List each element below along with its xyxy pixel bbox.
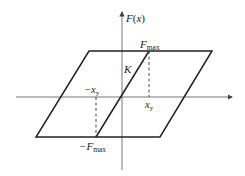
hysteresis-diagram: F(x) Fmax −Fmax xy −xy K	[0, 0, 245, 176]
x-y-label: xy	[144, 99, 154, 112]
y-axis-label: F(x)	[125, 12, 145, 25]
elastic-line-k	[96, 51, 149, 137]
neg-f-max-label: −Fmax	[79, 140, 106, 154]
neg-x-y-label: −xy	[84, 84, 100, 97]
f-max-label: Fmax	[139, 38, 160, 52]
stiffness-label: K	[123, 63, 132, 75]
